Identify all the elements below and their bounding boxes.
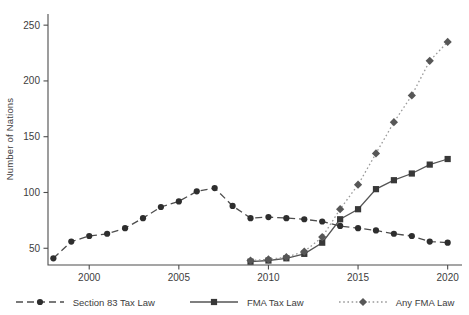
legend-sample-dashed-circle-icon <box>15 296 65 308</box>
y-tick-label: 50 <box>29 243 41 254</box>
data-point-section-83-tax-law <box>319 218 325 224</box>
data-point-section-83-tax-law <box>427 238 433 244</box>
data-point-fma-tax-law <box>409 170 415 176</box>
data-point-section-83-tax-law <box>301 216 307 222</box>
data-point-section-83-tax-law <box>122 225 128 231</box>
data-point-section-83-tax-law <box>355 225 361 231</box>
data-point-any-fma-law <box>408 91 416 99</box>
y-tick-label: 200 <box>23 75 40 86</box>
y-tick-label: 250 <box>23 20 40 31</box>
data-point-section-83-tax-law <box>409 233 415 239</box>
data-point-any-fma-law <box>426 57 434 65</box>
y-tick-label: 100 <box>23 187 40 198</box>
data-point-section-83-tax-law <box>373 227 379 233</box>
x-tick-label: 2005 <box>168 272 191 283</box>
data-point-section-83-tax-law <box>247 215 253 221</box>
legend-item-fma-tax-law: FMA Tax Law <box>189 296 304 308</box>
legend-label: Section 83 Tax Law <box>73 297 155 308</box>
legend-sample-dotted-diamond-icon <box>338 296 388 308</box>
data-point-fma-tax-law <box>373 186 379 192</box>
data-point-fma-tax-law <box>337 216 343 222</box>
data-point-section-83-tax-law <box>283 215 289 221</box>
legend-sample-marker <box>359 298 367 306</box>
data-point-section-83-tax-law <box>68 238 74 244</box>
data-point-section-83-tax-law <box>86 233 92 239</box>
legend-label: Any FMA Law <box>396 297 455 308</box>
y-axis-label: Number of Nations <box>4 98 15 181</box>
legend-label: FMA Tax Law <box>247 297 304 308</box>
data-point-fma-tax-law <box>391 177 397 183</box>
data-point-section-83-tax-law <box>140 215 146 221</box>
data-point-section-83-tax-law <box>194 188 200 194</box>
data-point-fma-tax-law <box>427 162 433 168</box>
x-tick-label: 2010 <box>257 272 280 283</box>
legend-item-any-fma-law: Any FMA Law <box>338 296 455 308</box>
legend-item-section-83-tax-law: Section 83 Tax Law <box>15 296 155 308</box>
x-tick-label: 2015 <box>347 272 370 283</box>
data-point-section-83-tax-law <box>445 240 451 246</box>
series-line-fma-tax-law <box>251 159 448 262</box>
legend-sample-solid-square-icon <box>189 296 239 308</box>
x-tick-label: 2020 <box>437 272 460 283</box>
data-point-section-83-tax-law <box>265 214 271 220</box>
data-point-section-83-tax-law <box>176 198 182 204</box>
data-point-section-83-tax-law <box>391 231 397 237</box>
data-point-fma-tax-law <box>355 206 361 212</box>
data-point-section-83-tax-law <box>50 255 56 261</box>
y-tick-label: 150 <box>23 131 40 142</box>
data-point-any-fma-law <box>390 118 398 126</box>
data-point-any-fma-law <box>372 149 380 157</box>
axis-lines <box>48 14 462 265</box>
data-point-section-83-tax-law <box>104 231 110 237</box>
data-point-fma-tax-law <box>445 156 451 162</box>
series-line-section-83-tax-law <box>53 188 447 258</box>
data-point-any-fma-law <box>336 205 344 213</box>
chart-figure: 5010015020025020002005201020152020 Numbe… <box>0 0 469 315</box>
line-chart-canvas: 5010015020025020002005201020152020 <box>0 0 469 292</box>
data-point-section-83-tax-law <box>158 204 164 210</box>
legend-sample-marker <box>37 299 43 305</box>
legend-sample-marker <box>211 299 217 305</box>
data-point-section-83-tax-law <box>337 223 343 229</box>
data-point-section-83-tax-law <box>229 203 235 209</box>
data-point-any-fma-law <box>354 181 362 189</box>
chart-legend: Section 83 Tax Law FMA Tax Law Any FMA L… <box>0 293 469 311</box>
x-tick-label: 2000 <box>78 272 101 283</box>
data-point-section-83-tax-law <box>212 185 218 191</box>
